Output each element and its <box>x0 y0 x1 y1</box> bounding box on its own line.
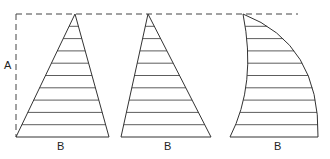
curved-sail-shape <box>230 14 318 137</box>
symmetric-triangle <box>16 14 109 137</box>
height-label-a: A <box>4 60 11 71</box>
base-label-b-3: B <box>274 141 281 152</box>
base-label-b-1: B <box>57 141 64 152</box>
skewed-triangle <box>121 14 211 137</box>
base-label-b-2: B <box>164 141 171 152</box>
diagram-canvas <box>0 0 330 159</box>
